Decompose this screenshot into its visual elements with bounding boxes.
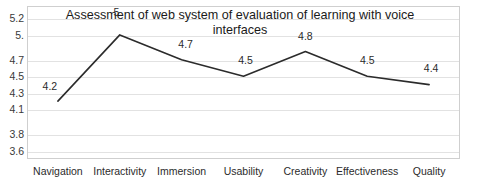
- y-axis-tick-label: 4.5: [9, 70, 24, 82]
- y-axis-tick-label: 4.7: [9, 54, 24, 66]
- data-point-label: 4.4: [424, 62, 439, 74]
- x-axis-tick-label: Immersion: [157, 165, 206, 177]
- data-point-label: 4.8: [298, 30, 313, 42]
- x-axis-tick-label: Navigation: [33, 165, 83, 177]
- series-polyline: [58, 35, 429, 101]
- data-series-line: [27, 6, 460, 159]
- y-axis-tick-labels: 5.25.4.74.54.34.13.83.6: [0, 6, 26, 159]
- y-axis-tick-label: 5.2: [9, 12, 24, 24]
- x-axis-tick-label: Effectiveness: [336, 165, 398, 177]
- data-point-label: 4.7: [178, 38, 193, 50]
- y-axis-tick-label: 4.1: [9, 103, 24, 115]
- data-point-label: 4.5: [238, 54, 253, 66]
- line-chart: 5.25.4.74.54.34.13.83.6 Assessment of we…: [0, 0, 486, 184]
- data-point-label: 5.: [113, 6, 122, 18]
- y-axis-tick-label: 5.: [15, 29, 24, 41]
- data-point-label: 4.2: [43, 80, 58, 92]
- x-axis-tick-label: Interactivity: [93, 165, 146, 177]
- x-axis-tick-label: Quality: [413, 165, 446, 177]
- x-axis-tick-label: Creativity: [284, 165, 328, 177]
- y-axis-tick-label: 3.6: [9, 145, 24, 157]
- data-point-label: 4.5: [360, 54, 375, 66]
- x-axis-tick-label: Usability: [224, 165, 264, 177]
- x-axis-category-labels: NavigationInteractivityImmersionUsabilit…: [27, 163, 460, 181]
- y-axis-tick-label: 4.3: [9, 87, 24, 99]
- y-axis-tick-label: 3.8: [9, 128, 24, 140]
